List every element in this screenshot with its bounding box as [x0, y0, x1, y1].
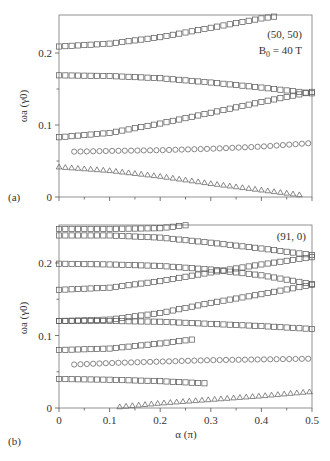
series-mode-4: [56, 255, 314, 293]
x-tick-label: 0.5: [305, 414, 319, 426]
panel-a-label: (a): [8, 191, 21, 204]
series-mode-6: [56, 318, 314, 331]
figure: 00.10.2 00.10.200.10.20.30.40.5 (a) (b) …: [0, 0, 330, 461]
y-tick-label: 0.1: [38, 330, 52, 342]
y-tick-label: 0.2: [38, 47, 52, 59]
series-mode-2: [56, 73, 314, 96]
x-tick-label: 0.3: [204, 414, 218, 426]
series-mode-5: [56, 282, 314, 323]
panel-b-annotation: (91, 0): [277, 230, 307, 243]
y-axis-label-a: ωa (γ0): [17, 89, 30, 122]
series-mode-7: [56, 337, 194, 353]
x-tick-label: 0: [56, 414, 62, 426]
y-tick-label: 0.1: [38, 119, 52, 131]
y-tick-label: 0: [47, 191, 53, 203]
panel-a-plot: 00.10.2: [38, 14, 314, 203]
series-mode-10: [117, 389, 312, 409]
x-tick-label: 0.2: [153, 414, 167, 426]
x-tick-label: 0.4: [255, 414, 269, 426]
series-mode-5: [56, 164, 302, 197]
y-tick-label: 0.2: [38, 257, 52, 269]
panel-b-plot: 00.10.200.10.20.30.40.5: [38, 223, 319, 426]
panel-a-annotation-2: B0 = 40 T: [259, 44, 303, 59]
series-mode-8: [72, 356, 311, 367]
series-mode-1: [56, 14, 276, 49]
series-mode-9: [56, 376, 207, 385]
series-mode-3: [56, 89, 314, 140]
panel-a-annotation-1: (50, 50): [267, 28, 302, 41]
plot-frame: [59, 15, 312, 197]
series-mode-1: [56, 223, 188, 232]
y-tick-label: 0: [47, 402, 53, 414]
y-axis-label-b: ωa (γ0): [17, 301, 30, 334]
panel-b-label: (b): [8, 435, 21, 448]
x-axis-label: α (π): [175, 428, 197, 441]
x-tick-label: 0.1: [103, 414, 117, 426]
series-mode-4: [72, 141, 311, 155]
